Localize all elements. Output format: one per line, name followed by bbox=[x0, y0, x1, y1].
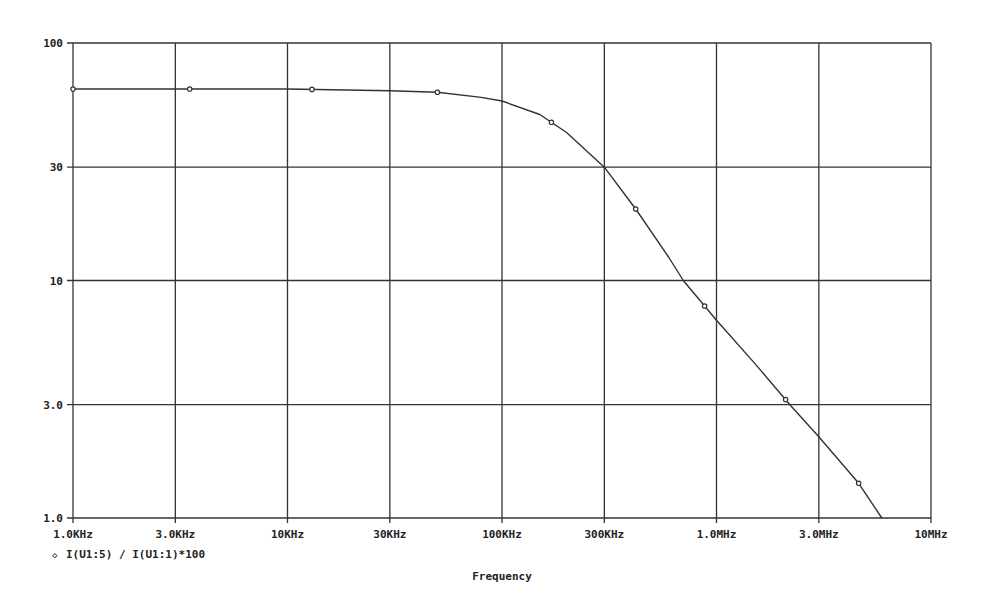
series-curve-group bbox=[71, 87, 882, 518]
data-point-marker bbox=[856, 481, 860, 485]
data-point-marker bbox=[435, 90, 439, 94]
series-line bbox=[73, 89, 882, 518]
data-point-marker bbox=[188, 87, 192, 91]
data-point-marker bbox=[702, 304, 706, 308]
x-tick-label: 100KHz bbox=[482, 528, 522, 541]
y-tick-label: 1.0 bbox=[43, 512, 63, 525]
legend: ◇ I(U1:5) / I(U1:1)*100 bbox=[52, 548, 205, 561]
data-point-marker bbox=[310, 87, 314, 91]
x-tick-label: 1.0MHz bbox=[697, 528, 737, 541]
data-point-marker bbox=[783, 397, 787, 401]
data-point-marker bbox=[633, 207, 637, 211]
y-tick-label: 30 bbox=[50, 161, 63, 174]
x-tick-label: 10KHz bbox=[271, 528, 304, 541]
y-tick-label: 100 bbox=[43, 37, 63, 50]
y-tick-label: 3.0 bbox=[43, 399, 63, 412]
x-tick-label: 3.0MHz bbox=[799, 528, 839, 541]
data-point-marker bbox=[71, 87, 75, 91]
x-tick-labels: 1.0KHz3.0KHz10KHz30KHz100KHz300KHz1.0MHz… bbox=[53, 528, 947, 541]
x-tick-label: 10MHz bbox=[914, 528, 947, 541]
data-point-marker bbox=[549, 120, 553, 124]
legend-marker-icon: ◇ bbox=[52, 550, 58, 560]
x-tick-label: 1.0KHz bbox=[53, 528, 93, 541]
y-tick-labels: 1.03.01030100 bbox=[43, 37, 63, 525]
chart: 1.0KHz3.0KHz10KHz30KHz100KHz300KHz1.0MHz… bbox=[0, 0, 981, 610]
x-tick-label: 30KHz bbox=[373, 528, 406, 541]
x-tick-label: 300KHz bbox=[584, 528, 624, 541]
legend-label: I(U1:5) / I(U1:1)*100 bbox=[66, 548, 205, 561]
grid bbox=[67, 43, 931, 523]
x-axis-title: Frequency bbox=[472, 570, 532, 583]
x-tick-label: 3.0KHz bbox=[155, 528, 195, 541]
y-tick-label: 10 bbox=[50, 275, 63, 288]
